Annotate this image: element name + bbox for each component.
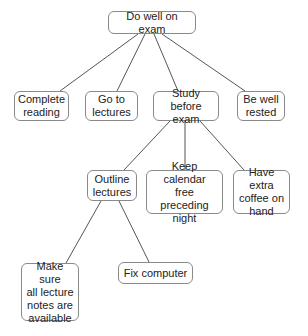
node-study-before-exam: Study before exam: [153, 91, 219, 121]
node-lecture-notes: Make sure all lecture notes are availabl…: [21, 263, 79, 321]
node-extra-coffee: Have extra coffee on hand: [233, 170, 290, 214]
node-root: Do well on exam: [108, 11, 196, 34]
node-outline-lectures: Outline lectures: [87, 170, 137, 201]
node-fix-computer: Fix computer: [118, 262, 193, 284]
node-keep-calendar: Keep calendar free preceding night: [146, 170, 223, 214]
node-go-to-lectures: Go to lectures: [85, 91, 138, 121]
edge-outline-lectures-to-fix-computer: [119, 201, 149, 262]
edge-root-to-complete-reading: [60, 34, 138, 91]
edge-root-to-go-to-lectures: [117, 34, 145, 91]
node-be-well-rested: Be well rested: [237, 91, 285, 121]
node-complete-reading: Complete reading: [14, 91, 69, 121]
edge-outline-lectures-to-lecture-notes: [66, 201, 101, 263]
